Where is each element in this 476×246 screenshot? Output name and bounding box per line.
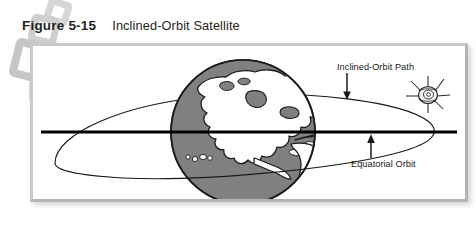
land-arctic-island-b bbox=[238, 78, 250, 85]
label-inclined-orbit-path: Inclined-Orbit Path bbox=[337, 62, 414, 72]
figure-frame: Inclined-Orbit Path Equatorial Orbit bbox=[30, 43, 468, 202]
satellite-icon bbox=[406, 76, 450, 113]
label-equatorial-orbit: Equatorial Orbit bbox=[351, 159, 416, 169]
figure-title: Inclined-Orbit Satellite bbox=[112, 18, 240, 33]
figure-number: Figure 5-15 bbox=[22, 18, 96, 33]
inclined-orbit-leader-arrow bbox=[343, 73, 351, 100]
land-great-lakes bbox=[280, 107, 299, 119]
land-arctic-island-a bbox=[220, 82, 234, 91]
figure-caption: Figure 5-15Inclined-Orbit Satellite bbox=[22, 17, 240, 33]
equatorial-orbit-leader-arrow bbox=[367, 134, 375, 158]
